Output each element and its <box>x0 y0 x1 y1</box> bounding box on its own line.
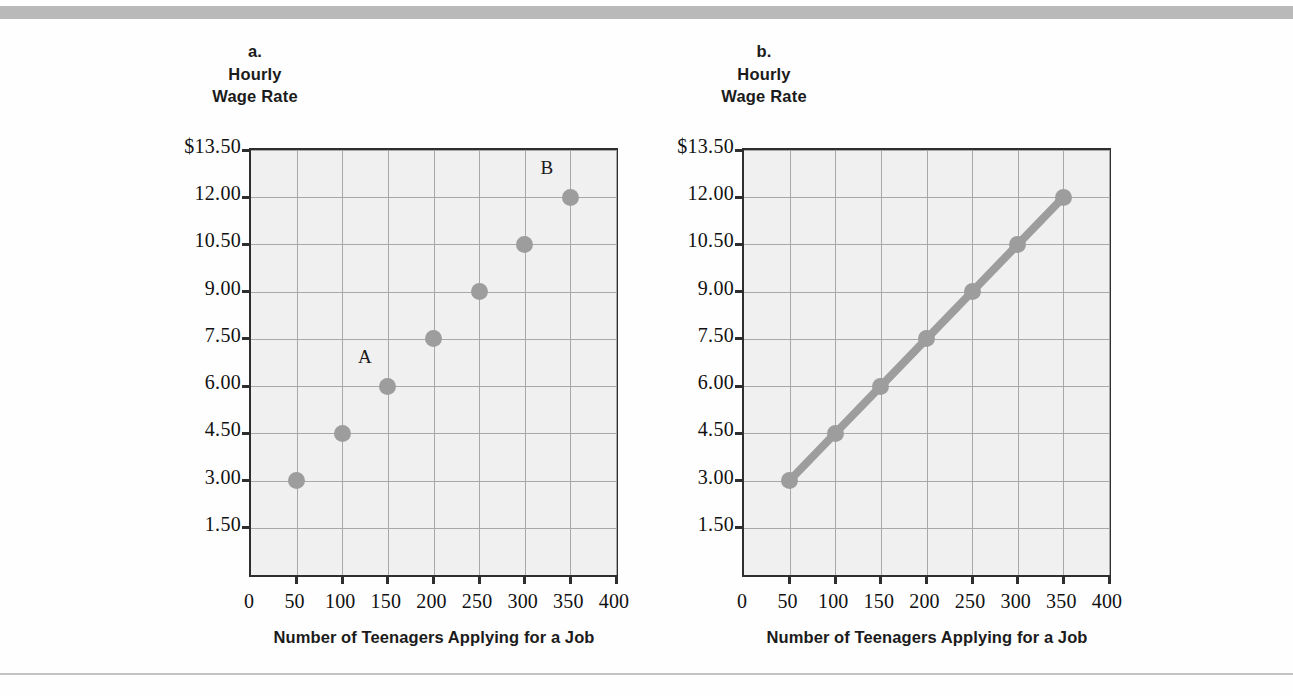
data-point-marker <box>562 189 579 206</box>
y-axis-tick <box>735 337 744 340</box>
y-axis-tick <box>242 526 251 529</box>
gridline-vertical <box>388 150 389 575</box>
panel-b-plot-area <box>742 148 1111 577</box>
y-axis-tick-label: 3.00 <box>624 466 734 489</box>
point-annotation-label: B <box>540 157 553 179</box>
panel-a-heading: a. Hourly Wage Rate <box>130 40 380 108</box>
data-point-marker <box>334 425 351 442</box>
y-axis-tick <box>735 290 744 293</box>
x-axis-tick <box>925 575 928 584</box>
y-axis-tick <box>735 432 744 435</box>
data-point-marker <box>964 283 981 300</box>
x-axis-tick <box>432 575 435 584</box>
panel-a-title-line1: Hourly <box>130 63 380 86</box>
y-axis-tick <box>735 243 744 246</box>
panel-b-plot-inner <box>744 150 1109 575</box>
y-axis-tick-label: 7.50 <box>131 324 241 347</box>
y-axis-tick <box>735 196 744 199</box>
x-axis-tick <box>478 575 481 584</box>
y-axis-tick-label: 1.50 <box>624 513 734 536</box>
y-axis-tick <box>242 432 251 435</box>
y-axis-tick-label: $13.50 <box>131 135 241 158</box>
x-axis-tick-label: 400 <box>1077 590 1137 613</box>
x-axis-tick <box>1062 575 1065 584</box>
y-axis-tick-label: 4.50 <box>131 418 241 441</box>
panel-b-letter: b. <box>639 40 889 63</box>
x-axis-tick <box>341 575 344 584</box>
panel-b-title-line1: Hourly <box>639 63 889 86</box>
x-axis-tick <box>1108 575 1111 584</box>
panel-b: b. Hourly Wage Rate 1.503.004.506.007.50… <box>493 0 1139 670</box>
y-axis-tick-label: 9.00 <box>624 277 734 300</box>
gridline-vertical <box>1109 150 1110 575</box>
y-axis-tick <box>735 149 744 152</box>
data-point-marker <box>872 378 889 395</box>
figure-root: a. Hourly Wage Rate 1.503.004.506.007.50… <box>0 0 1293 696</box>
x-axis-tick <box>834 575 837 584</box>
y-axis-tick-label: 12.00 <box>624 182 734 205</box>
panel-b-y-axis-labels: 1.503.004.506.007.509.0010.5012.00$13.50 <box>624 148 734 577</box>
data-point-marker <box>471 283 488 300</box>
panel-a-letter: a. <box>130 40 380 63</box>
y-axis-tick-label: 6.00 <box>131 371 241 394</box>
x-axis-tick <box>386 575 389 584</box>
bottom-divider-rule <box>0 673 1293 675</box>
series-line <box>744 150 1109 575</box>
y-axis-tick-label: 3.00 <box>131 466 241 489</box>
data-point-marker <box>425 330 442 347</box>
y-axis-tick <box>735 385 744 388</box>
y-axis-tick <box>242 337 251 340</box>
y-axis-tick <box>242 243 251 246</box>
panel-b-title-line2: Wage Rate <box>639 85 889 108</box>
panel-a-y-axis-labels: 1.503.004.506.007.509.0010.5012.00$13.50 <box>131 148 241 577</box>
y-axis-tick-label: 7.50 <box>624 324 734 347</box>
y-axis-tick-label: $13.50 <box>624 135 734 158</box>
x-axis-tick <box>788 575 791 584</box>
panel-b-heading: b. Hourly Wage Rate <box>639 40 889 108</box>
y-axis-tick-label: 9.00 <box>131 277 241 300</box>
point-annotation-label: A <box>358 346 372 368</box>
y-axis-tick <box>242 149 251 152</box>
panel-a-title-line2: Wage Rate <box>130 85 380 108</box>
data-point-marker <box>379 378 396 395</box>
y-axis-tick <box>242 479 251 482</box>
y-axis-tick-label: 10.50 <box>131 229 241 252</box>
panel-b-x-axis-title: Number of Teenagers Applying for a Job <box>707 628 1147 647</box>
panel-b-x-axis-labels: 050100150200250300350400 <box>742 590 1111 620</box>
y-axis-tick-label: 12.00 <box>131 182 241 205</box>
y-axis-tick-label: 4.50 <box>624 418 734 441</box>
y-axis-tick <box>735 479 744 482</box>
x-axis-tick <box>971 575 974 584</box>
y-axis-tick-label: 1.50 <box>131 513 241 536</box>
y-axis-tick <box>242 196 251 199</box>
x-axis-tick <box>1016 575 1019 584</box>
gridline-vertical <box>297 150 298 575</box>
gridline-vertical <box>342 150 343 575</box>
gridline-vertical <box>479 150 480 575</box>
data-point-marker <box>827 425 844 442</box>
gridline-vertical <box>434 150 435 575</box>
data-point-marker <box>288 472 305 489</box>
x-axis-tick <box>879 575 882 584</box>
y-axis-tick-label: 10.50 <box>624 229 734 252</box>
x-axis-tick <box>295 575 298 584</box>
y-axis-tick <box>242 385 251 388</box>
y-axis-tick <box>242 290 251 293</box>
data-point-marker <box>1055 189 1072 206</box>
y-axis-tick-label: 6.00 <box>624 371 734 394</box>
y-axis-tick <box>735 526 744 529</box>
